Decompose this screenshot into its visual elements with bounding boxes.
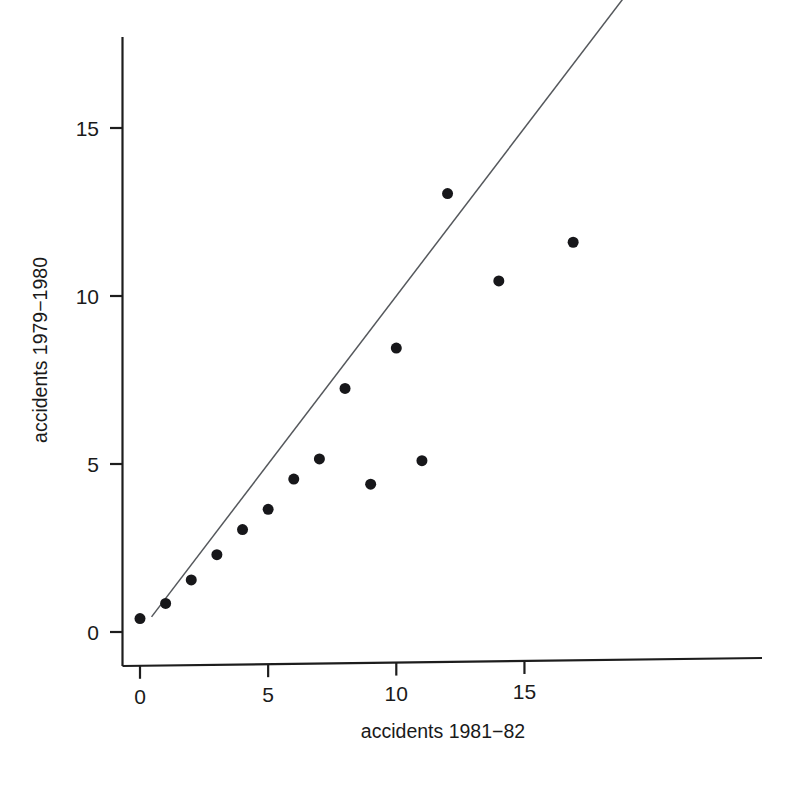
data-point [442,188,453,199]
y-axis-label: accidents 1979−1980 [29,257,51,443]
data-point [568,237,579,248]
y-tick-label-10: 10 [76,285,99,308]
y-tick-label-5: 5 [87,453,99,476]
x-axis-line [123,658,763,666]
data-point [314,453,325,464]
data-point [211,549,222,560]
x-tick-label-10: 10 [385,682,408,705]
data-point [160,598,171,609]
data-point [135,613,146,624]
x-axis-label: accidents 1981−82 [361,720,525,742]
scatter-plot-figure: 051015 051015 accidents 1981−82 accident… [0,0,794,787]
x-tick-label-15: 15 [513,680,536,703]
data-point [416,455,427,466]
identity-reference-line [152,0,726,617]
data-point [340,383,351,394]
x-tick-label-0: 0 [134,685,146,708]
data-point [186,574,197,585]
data-point [493,275,504,286]
x-tick-label-5: 5 [262,683,274,706]
plot-canvas: 051015 051015 accidents 1981−82 accident… [0,0,794,787]
y-axis-ticks [110,128,123,632]
y-axis-tick-labels: 051015 [76,117,99,644]
data-points-group [135,188,579,624]
data-point [263,504,274,515]
data-point [237,524,248,535]
y-tick-label-15: 15 [76,117,99,140]
data-point [391,343,402,354]
y-tick-label-0: 0 [87,621,99,644]
x-axis-tick-labels: 051015 [134,680,536,708]
data-point [365,479,376,490]
data-point [288,474,299,485]
